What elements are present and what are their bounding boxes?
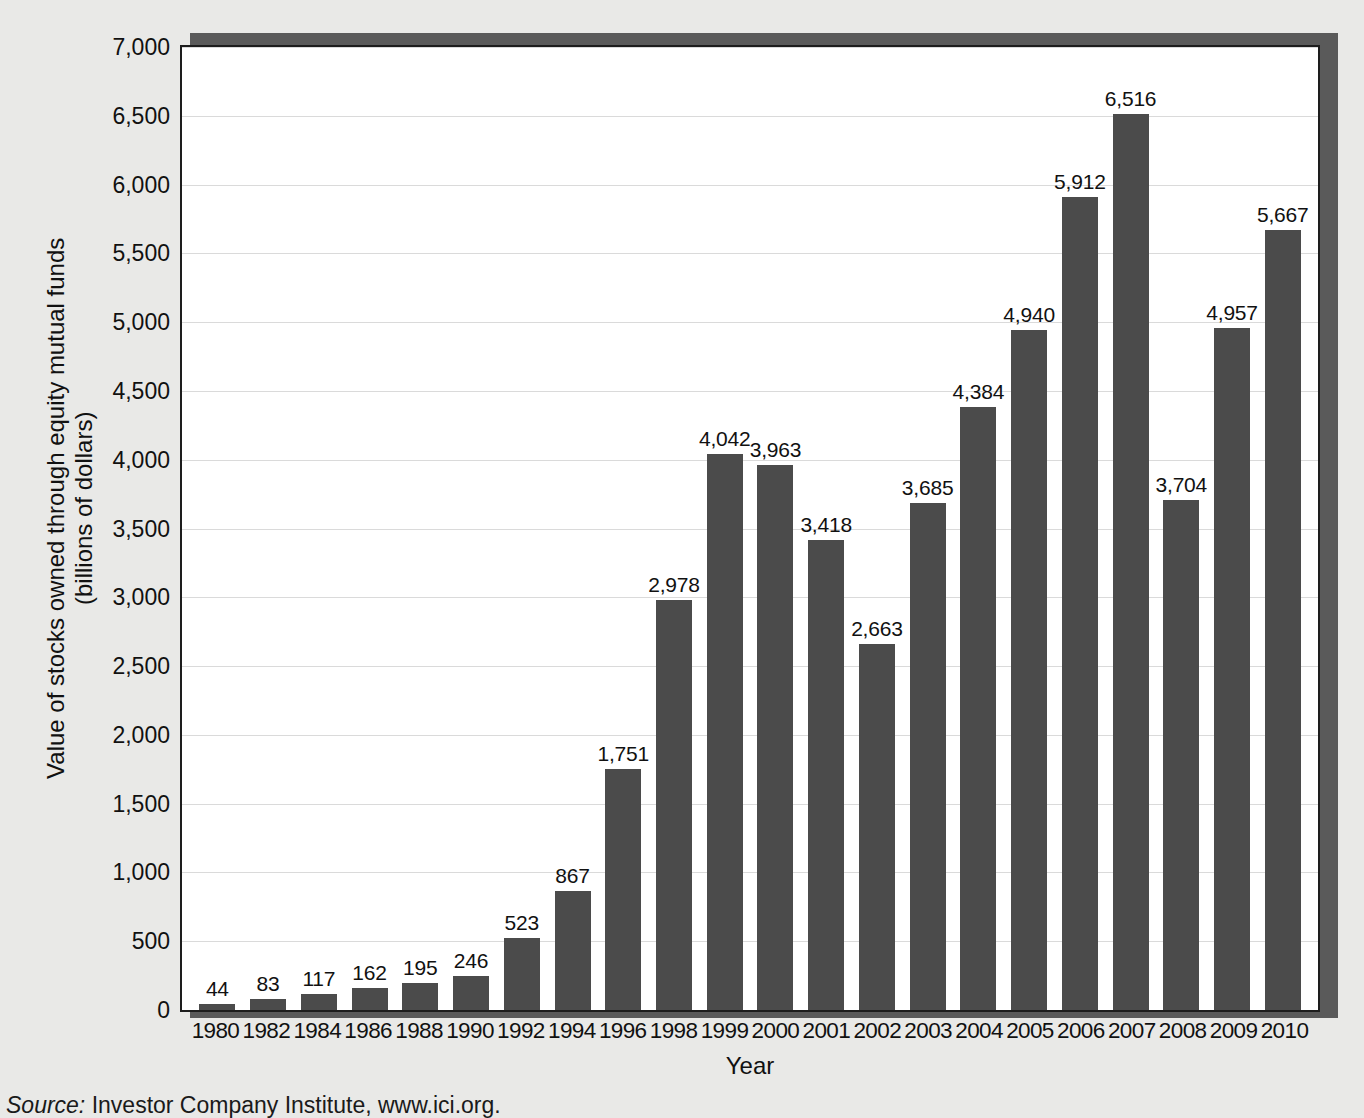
bar-value-label: 4,957 bbox=[1206, 301, 1258, 325]
bar-value-label: 4,940 bbox=[1003, 303, 1055, 327]
bar-value-label: 3,418 bbox=[800, 513, 852, 537]
x-axis-tick-label: 1999 bbox=[699, 1018, 750, 1048]
bar[interactable] bbox=[1011, 330, 1047, 1010]
bar-value-label: 5,667 bbox=[1257, 203, 1309, 227]
y-axis-tick-label: 500 bbox=[70, 928, 170, 955]
plot-area: 44831171621952465238671,7512,9784,0423,9… bbox=[182, 47, 1318, 1010]
bar[interactable] bbox=[1113, 114, 1149, 1010]
y-axis-tick-label: 5,500 bbox=[70, 240, 170, 267]
x-axis-tick-label: 2002 bbox=[852, 1018, 903, 1048]
bar-value-label: 4,042 bbox=[699, 427, 751, 451]
bar[interactable] bbox=[1062, 197, 1098, 1010]
bar[interactable] bbox=[301, 994, 337, 1010]
bar-value-label: 246 bbox=[454, 949, 488, 973]
bar-slot: 117 bbox=[293, 47, 344, 1010]
bar[interactable] bbox=[555, 891, 591, 1010]
bar[interactable] bbox=[1163, 500, 1199, 1010]
bar-value-label: 162 bbox=[352, 961, 386, 985]
bar-value-label: 1,751 bbox=[597, 742, 649, 766]
bar[interactable] bbox=[199, 1004, 235, 1010]
bar-slot: 4,042 bbox=[699, 47, 750, 1010]
bar-value-label: 195 bbox=[403, 956, 437, 980]
bar-slot: 3,963 bbox=[750, 47, 801, 1010]
x-axis-tick-label: 2007 bbox=[1106, 1018, 1157, 1048]
y-axis-tick-label: 1,500 bbox=[70, 790, 170, 817]
bar-slot: 4,940 bbox=[1004, 47, 1055, 1010]
bar[interactable] bbox=[707, 454, 743, 1010]
x-axis-tick-label: 2009 bbox=[1208, 1018, 1259, 1048]
plot-frame: 44831171621952465238671,7512,9784,0423,9… bbox=[180, 45, 1320, 1012]
bar[interactable] bbox=[605, 769, 641, 1010]
bar[interactable] bbox=[859, 644, 895, 1010]
chart-figure: Value of stocks owned through equity mut… bbox=[0, 0, 1364, 1118]
x-axis-title: Year bbox=[180, 1052, 1320, 1080]
bar-value-label: 3,685 bbox=[902, 476, 954, 500]
bar-value-label: 3,963 bbox=[750, 438, 802, 462]
source-note: Source: Investor Company Institute, www.… bbox=[6, 1092, 501, 1118]
bar-value-label: 5,912 bbox=[1054, 170, 1106, 194]
bar-slot: 83 bbox=[243, 47, 294, 1010]
y-axis-tick-label: 6,500 bbox=[70, 102, 170, 129]
bar-slot: 5,667 bbox=[1257, 47, 1308, 1010]
x-axis-tick-label: 2001 bbox=[801, 1018, 852, 1048]
bar-slot: 523 bbox=[496, 47, 547, 1010]
bar-slot: 195 bbox=[395, 47, 446, 1010]
x-axis-tick-label: 2006 bbox=[1055, 1018, 1106, 1048]
bar-value-label: 4,384 bbox=[953, 380, 1005, 404]
bar[interactable] bbox=[453, 976, 489, 1010]
bar-slot: 2,663 bbox=[852, 47, 903, 1010]
x-axis-tick-label: 1984 bbox=[292, 1018, 343, 1048]
bar-slot: 5,912 bbox=[1054, 47, 1105, 1010]
y-axis-tick-label: 4,000 bbox=[70, 446, 170, 473]
bar[interactable] bbox=[250, 999, 286, 1010]
x-axis-tick-label: 2005 bbox=[1005, 1018, 1056, 1048]
y-axis-tick-label: 4,500 bbox=[70, 377, 170, 404]
bar-value-label: 3,704 bbox=[1156, 473, 1208, 497]
y-axis-tick-labels: 7,0006,5006,0005,5005,0004,5004,0003,500… bbox=[62, 45, 170, 1012]
bar-slot: 3,685 bbox=[902, 47, 953, 1010]
bar[interactable] bbox=[1214, 328, 1250, 1010]
bar[interactable] bbox=[656, 600, 692, 1010]
bar-slot: 3,704 bbox=[1156, 47, 1207, 1010]
x-axis-tick-label: 1994 bbox=[546, 1018, 597, 1048]
x-axis-tick-label: 1996 bbox=[597, 1018, 648, 1048]
y-axis-tick-label: 2,500 bbox=[70, 653, 170, 680]
y-axis-tick-label: 5,000 bbox=[70, 309, 170, 336]
x-axis-tick-label: 2000 bbox=[750, 1018, 801, 1048]
bar-slot: 1,751 bbox=[598, 47, 649, 1010]
bar[interactable] bbox=[910, 503, 946, 1010]
bar[interactable] bbox=[757, 465, 793, 1010]
x-axis-tick-label: 1990 bbox=[445, 1018, 496, 1048]
x-axis-tick-label: 2008 bbox=[1157, 1018, 1208, 1048]
bar[interactable] bbox=[808, 540, 844, 1010]
source-prefix: Source: bbox=[6, 1092, 85, 1118]
bar-value-label: 2,663 bbox=[851, 617, 903, 641]
y-axis-tick-label: 1,000 bbox=[70, 859, 170, 886]
bar-value-label: 83 bbox=[257, 972, 280, 996]
bar[interactable] bbox=[504, 938, 540, 1010]
bar[interactable] bbox=[960, 407, 996, 1010]
source-text: Investor Company Institute, www.ici.org. bbox=[85, 1092, 500, 1118]
bar-slot: 162 bbox=[344, 47, 395, 1010]
bar[interactable] bbox=[1265, 230, 1301, 1010]
bar-value-label: 523 bbox=[505, 911, 539, 935]
bar[interactable] bbox=[352, 988, 388, 1010]
y-axis-tick-label: 6,000 bbox=[70, 171, 170, 198]
bar-slot: 4,384 bbox=[953, 47, 1004, 1010]
bar[interactable] bbox=[402, 983, 438, 1010]
x-axis-tick-labels: 1980198219841986198819901992199419961998… bbox=[180, 1018, 1320, 1048]
bar-slot: 2,978 bbox=[649, 47, 700, 1010]
bar-slot: 4,957 bbox=[1207, 47, 1258, 1010]
bar-value-label: 867 bbox=[555, 864, 589, 888]
y-axis-tick-label: 7,000 bbox=[70, 34, 170, 61]
bar-value-label: 44 bbox=[206, 977, 229, 1001]
y-axis-tick-label: 2,000 bbox=[70, 721, 170, 748]
bar-value-label: 6,516 bbox=[1105, 87, 1157, 111]
x-axis-tick-label: 1992 bbox=[495, 1018, 546, 1048]
y-axis-tick-label: 3,500 bbox=[70, 515, 170, 542]
x-axis-tick-label: 2003 bbox=[903, 1018, 954, 1048]
y-axis-tick-label: 0 bbox=[70, 997, 170, 1024]
x-axis-tick-label: 1982 bbox=[241, 1018, 292, 1048]
bar-value-label: 117 bbox=[302, 967, 335, 991]
x-axis-tick-label: 1980 bbox=[190, 1018, 241, 1048]
